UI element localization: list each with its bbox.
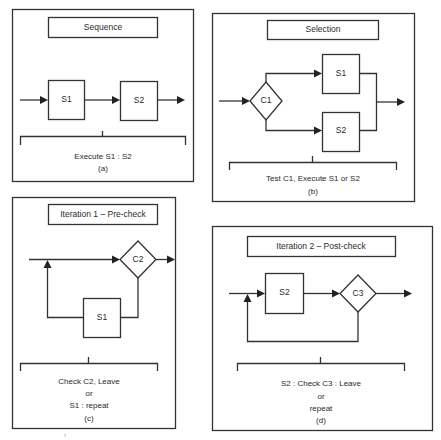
flow-line bbox=[266, 74, 317, 83]
node-label: S1 bbox=[61, 94, 72, 104]
node-label: S2 bbox=[134, 95, 145, 105]
panel-title: Iteration 1 – Pre-check bbox=[60, 209, 146, 219]
arrow-head-icon bbox=[167, 256, 175, 264]
caption-line: Test C1, Execute S1 or S2 bbox=[266, 174, 360, 183]
panel-sequence: Sequence S1 S2 Execute S1 : S2 (a) bbox=[13, 10, 194, 182]
arrow-head-icon bbox=[404, 290, 412, 298]
node-label: S2 bbox=[279, 287, 290, 297]
caption-line: S2 : Check C3 : Leave bbox=[281, 379, 362, 388]
panel-title: Sequence bbox=[84, 22, 123, 32]
scan-artifact-mark: i bbox=[64, 432, 65, 438]
caption-line: or bbox=[317, 392, 324, 401]
caption-bracket bbox=[21, 357, 158, 371]
arrow-head-icon bbox=[44, 260, 52, 268]
node-label: S1 bbox=[97, 312, 108, 322]
caption-line: Execute S1 : S2 bbox=[74, 152, 132, 161]
node-label: S2 bbox=[336, 125, 347, 135]
panel-iteration-precheck: Iteration 1 – Pre-check C2 S1 Check C2, … bbox=[13, 198, 176, 429]
caption-line: Check C2, Leave bbox=[58, 377, 120, 386]
loop-back-line bbox=[48, 266, 84, 318]
arrow-head-icon bbox=[177, 96, 185, 104]
arrow-head-icon bbox=[112, 256, 120, 264]
caption-label: (a) bbox=[98, 164, 108, 173]
flow-line bbox=[266, 120, 317, 131]
caption-bracket bbox=[238, 357, 405, 371]
arrow-head-icon bbox=[257, 290, 265, 298]
arrow-head-icon bbox=[40, 96, 48, 104]
panel-selection: Selection C1 S1 S2 Test C1, Execute S1 o… bbox=[213, 14, 415, 202]
panel-title: Iteration 2 – Post-check bbox=[276, 241, 366, 251]
node-label: C1 bbox=[261, 95, 272, 105]
caption-label: (b) bbox=[308, 187, 318, 196]
caption-bracket bbox=[230, 156, 397, 170]
arrow-head-icon bbox=[244, 294, 252, 302]
caption-line: or bbox=[85, 389, 92, 398]
arrow-head-icon bbox=[314, 127, 322, 135]
caption-bracket bbox=[21, 131, 186, 145]
arrow-head-icon bbox=[242, 97, 250, 105]
loop-line bbox=[121, 278, 139, 318]
merge-line bbox=[360, 74, 377, 131]
caption-label: (d) bbox=[316, 416, 326, 425]
node-label: C2 bbox=[133, 254, 144, 264]
arrow-head-icon bbox=[314, 70, 322, 78]
arrow-head-icon bbox=[332, 290, 340, 298]
caption-label: (c) bbox=[84, 414, 94, 423]
arrow-head-icon bbox=[397, 98, 405, 106]
caption-line: repeat bbox=[310, 404, 333, 413]
caption-line: S1 : repeat bbox=[69, 401, 109, 410]
node-label: S1 bbox=[336, 68, 347, 78]
control-structures-diagram: Sequence S1 S2 Execute S1 : S2 (a) Selec… bbox=[0, 0, 441, 440]
panel-iteration-postcheck: Iteration 2 – Post-check S2 C3 S2 : Chec… bbox=[213, 227, 433, 431]
node-label: C3 bbox=[353, 288, 364, 298]
panel-title: Selection bbox=[306, 24, 341, 34]
arrow-head-icon bbox=[112, 96, 120, 104]
